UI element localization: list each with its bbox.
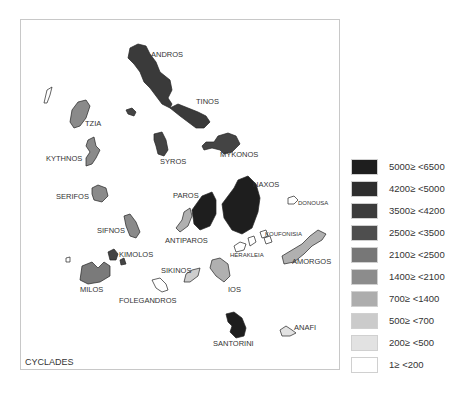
island-antimilos[interactable] xyxy=(66,257,70,262)
label-sifnos: SIFNOS xyxy=(97,226,125,235)
label-sikinos: SIKINOS xyxy=(161,266,191,275)
island-polyaigos[interactable] xyxy=(120,258,126,265)
legend-label: 200≥ <500 xyxy=(389,337,434,348)
label-kimolos: KIMOLOS xyxy=(119,250,153,259)
legend-swatch xyxy=(351,225,378,241)
island-kythnos[interactable] xyxy=(86,137,100,166)
island-schinoussa[interactable] xyxy=(248,236,256,246)
legend-swatch xyxy=(351,159,378,175)
legend-swatch xyxy=(351,247,378,263)
label-tzia: TZIA xyxy=(85,119,101,128)
legend-item: 5000≥ <6500 xyxy=(351,159,468,176)
legend-swatch xyxy=(351,269,378,285)
legend-swatch xyxy=(351,181,378,197)
label-donousa: DONOUSA xyxy=(298,200,328,206)
island-kimolos[interactable] xyxy=(108,249,118,260)
label-andros: ANDROS xyxy=(151,50,183,59)
label-kythnos: KYTHNOS xyxy=(46,154,82,163)
island-syros[interactable] xyxy=(154,132,168,156)
legend-label: 2100≥ <2500 xyxy=(389,249,445,260)
legend-label: 1≥ <200 xyxy=(389,359,424,370)
label-syros: SYROS xyxy=(160,157,186,166)
island-makronisos[interactable] xyxy=(44,87,52,103)
island-tinos[interactable] xyxy=(170,104,210,128)
legend-item: 1400≥ <2100 xyxy=(351,269,468,286)
legend-item: 2100≥ <2500 xyxy=(351,247,468,264)
legend-swatch xyxy=(351,291,378,307)
legend-item: 3500≥ <4200 xyxy=(351,203,468,220)
label-paros: PAROS xyxy=(173,191,199,200)
legend-label: 700≥ <1400 xyxy=(389,293,439,304)
legend-label: 2500≥ <3500 xyxy=(389,227,445,238)
legend-label: 3500≥ <4200 xyxy=(389,205,445,216)
island-milos[interactable] xyxy=(80,262,110,284)
map-title: CYCLADES xyxy=(25,357,74,367)
legend-item: 500≥ <700 xyxy=(351,313,468,330)
legend-swatch xyxy=(351,335,378,351)
legend-label: 4200≥ <5000 xyxy=(389,183,445,194)
island-antiparos[interactable] xyxy=(176,208,192,232)
legend-label: 1400≥ <2100 xyxy=(389,271,445,282)
label-herakleia: HERAKLEIA xyxy=(230,252,264,258)
label-naxos: NAXOS xyxy=(253,180,279,189)
legend-item: 2500≥ <3500 xyxy=(351,225,468,242)
label-folegandros: FOLEGANDROS xyxy=(119,296,177,305)
island-donousa[interactable] xyxy=(288,196,298,204)
legend-label: 500≥ <700 xyxy=(389,315,434,326)
island-sifnos[interactable] xyxy=(124,214,140,238)
legend-swatch xyxy=(351,313,378,329)
legend-item: 1≥ <200 xyxy=(351,357,468,374)
label-koufonisia: KOUFONISIA xyxy=(265,231,302,237)
island-gyaros[interactable] xyxy=(126,108,136,116)
island-santorini[interactable] xyxy=(226,312,246,338)
legend-item: 4200≥ <5000 xyxy=(351,181,468,198)
island-serifos[interactable] xyxy=(92,185,108,202)
label-serifos: SERIFOS xyxy=(56,192,89,201)
label-santorini: SANTORINI xyxy=(213,339,254,348)
legend-item: 700≥ <1400 xyxy=(351,291,468,308)
legend-swatch xyxy=(351,203,378,219)
label-antiparos: ANTIPAROS xyxy=(165,236,208,245)
legend-swatch xyxy=(351,357,378,373)
label-anafi: ANAFI xyxy=(294,323,316,332)
legend-item: 200≥ <500 xyxy=(351,335,468,352)
legend-label: 5000≥ <6500 xyxy=(389,161,445,172)
label-tinos: TINOS xyxy=(196,97,219,106)
label-mykonos: MYKONOS xyxy=(220,150,258,159)
island-herakleia[interactable] xyxy=(234,242,246,252)
island-folegandros[interactable] xyxy=(152,278,168,292)
label-milos: MILOS xyxy=(80,285,103,294)
island-ios[interactable] xyxy=(210,258,230,282)
label-amorgos: AMORGOS xyxy=(292,257,331,266)
label-ios: IOS xyxy=(228,285,241,294)
